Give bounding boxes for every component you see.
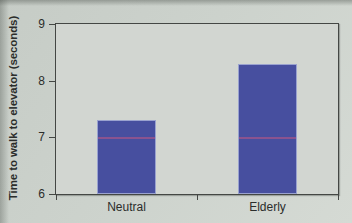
bar-neutral [97,120,156,194]
y-tick-mark [49,194,55,195]
x-tick-label: Elderly [223,200,313,214]
x-tick-mark [338,195,339,200]
y-tick-mark [49,24,55,25]
y-tick-label: 9 [23,17,45,31]
y-tick-mark [49,137,55,138]
y-tick-label: 8 [23,74,45,88]
plot-area [55,23,339,195]
x-tick-mark [56,195,57,200]
x-tick-mark [197,195,198,200]
y-axis-title: Time to walk to elevator (seconds) [7,16,19,200]
scanned-chart-page: Time to walk to elevator (seconds) 6789N… [0,0,352,223]
bar-chart: Time to walk to elevator (seconds) 6789N… [0,0,352,223]
bar-elderly [238,64,297,194]
y-tick-mark [49,81,55,82]
x-tick-label: Neutral [82,200,172,214]
y-tick-label: 7 [23,130,45,144]
y-tick-label: 6 [23,187,45,201]
print-artifact-line [98,137,155,139]
print-artifact-line [239,137,296,139]
